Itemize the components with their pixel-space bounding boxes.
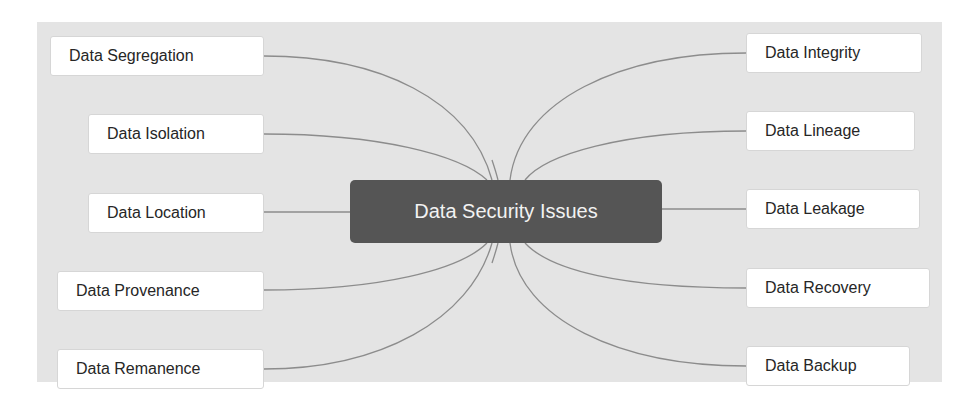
node-data-segregation[interactable]: Data Segregation: [50, 36, 264, 76]
node-label: Data Provenance: [76, 282, 200, 300]
connector-data-segregation: [264, 56, 492, 180]
node-data-provenance[interactable]: Data Provenance: [57, 271, 264, 311]
connector-data-backup: [510, 243, 746, 366]
node-data-leakage[interactable]: Data Leakage: [746, 189, 920, 229]
node-data-location[interactable]: Data Location: [88, 193, 264, 233]
connector-data-isolation: [264, 134, 487, 180]
central-topic-label: Data Security Issues: [414, 200, 597, 223]
node-label: Data Segregation: [69, 47, 194, 65]
node-data-isolation[interactable]: Data Isolation: [88, 114, 264, 154]
connector-data-provenance: [264, 243, 487, 290]
connector-data-integrity: [510, 53, 746, 180]
node-label: Data Leakage: [765, 200, 865, 218]
node-label: Data Location: [107, 204, 206, 222]
node-data-recovery[interactable]: Data Recovery: [746, 268, 930, 308]
node-data-integrity[interactable]: Data Integrity: [746, 33, 922, 73]
node-label: Data Backup: [765, 357, 857, 375]
connector-data-recovery: [525, 243, 746, 288]
node-data-remanence[interactable]: Data Remanence: [57, 349, 264, 389]
node-label: Data Isolation: [107, 125, 205, 143]
node-data-lineage[interactable]: Data Lineage: [746, 111, 915, 151]
node-label: Data Recovery: [765, 279, 871, 297]
central-topic-node[interactable]: Data Security Issues: [350, 180, 662, 243]
node-label: Data Integrity: [765, 44, 860, 62]
node-label: Data Remanence: [76, 360, 201, 378]
node-data-backup[interactable]: Data Backup: [746, 346, 910, 386]
connector-data-lineage: [525, 131, 746, 180]
connector-spoke: [492, 243, 498, 263]
node-label: Data Lineage: [765, 122, 860, 140]
connector-spoke: [492, 160, 498, 180]
